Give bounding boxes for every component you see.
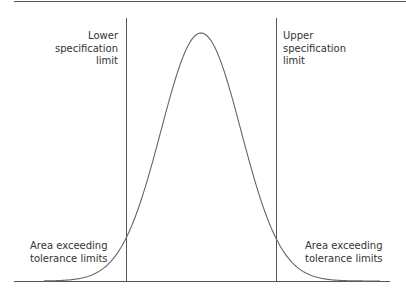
left-tolerance-area-label: Area exceeding tolerance limits bbox=[30, 240, 108, 265]
right-area-label-line-2: tolerance limits bbox=[305, 253, 383, 266]
right-tolerance-area-label: Area exceeding tolerance limits bbox=[305, 240, 383, 265]
upper-spec-label-line-2: specification bbox=[283, 43, 346, 56]
left-area-label-line-2: tolerance limits bbox=[30, 253, 108, 266]
upper-spec-limit-label: Upper specification limit bbox=[283, 30, 346, 68]
upper-spec-label-line-3: limit bbox=[283, 55, 346, 68]
lower-spec-limit-label: Lower specification limit bbox=[55, 30, 118, 68]
left-area-label-line-1: Area exceeding bbox=[30, 240, 108, 253]
upper-spec-label-line-1: Upper bbox=[283, 30, 346, 43]
lower-spec-label-line-1: Lower bbox=[55, 30, 118, 43]
lower-spec-label-line-3: limit bbox=[55, 55, 118, 68]
right-area-label-line-1: Area exceeding bbox=[305, 240, 383, 253]
lower-spec-label-line-2: specification bbox=[55, 43, 118, 56]
